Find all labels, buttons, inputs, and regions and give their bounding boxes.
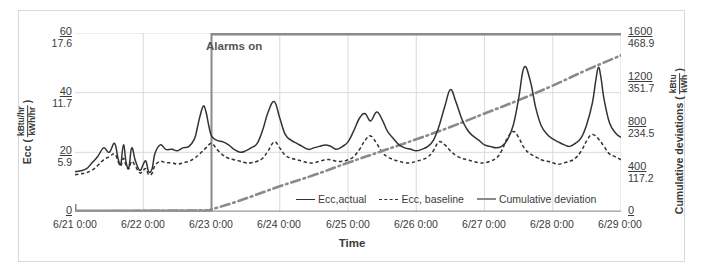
x-tick-5: 6/26 0:00 xyxy=(379,218,453,230)
left-tick-60-primary: 60 xyxy=(32,26,72,38)
legend-label-ecc-actual: Ecc,actual xyxy=(318,193,366,205)
left-tick-20-primary: 20 xyxy=(32,145,72,157)
right-tick-1200: 1200 351.7 xyxy=(628,71,672,94)
right-tick-1200-secondary: 351.7 xyxy=(628,83,672,94)
x-tick-0: 6/21 0:00 xyxy=(38,218,112,230)
left-tick-20: 20 5.9 xyxy=(32,145,72,168)
plot-svg xyxy=(75,33,621,212)
left-tick-40-primary: 40 xyxy=(32,86,72,98)
right-tick-400-primary: 400 xyxy=(628,161,672,173)
x-tick-7: 6/28 0:00 xyxy=(515,218,589,230)
legend-swatch-thick-line-icon xyxy=(477,198,496,200)
legend-label-cumulative-deviation: Cumulative deviation xyxy=(499,193,596,205)
legend-item-ecc-baseline: Ecc, baseline xyxy=(379,193,463,205)
x-tick-6: 6/27 0:00 xyxy=(447,218,521,230)
right-tick-800: 800 234.5 xyxy=(628,116,672,139)
chart-legend: Ecc,actual Ecc, baseline Cumulative devi… xyxy=(296,193,596,205)
x-tick-4: 6/25 0:00 xyxy=(311,218,385,230)
x-tick-3: 6/24 0:00 xyxy=(242,218,316,230)
right-tick-1600-secondary: 468.9 xyxy=(628,38,672,49)
right-axis-title-close: ) xyxy=(673,68,685,72)
x-tick-8: 6/29 0:00 xyxy=(583,218,657,230)
plot-area xyxy=(75,33,621,212)
x-axis-title: Time xyxy=(0,237,704,249)
right-tick-0-primary: 0 xyxy=(628,205,672,217)
left-tick-0: 0 xyxy=(32,205,72,217)
right-tick-400-secondary: 117.2 xyxy=(628,173,672,184)
right-tick-1600: 1600 468.9 xyxy=(628,26,672,49)
right-tick-400: 400 117.2 xyxy=(628,161,672,184)
x-tick-1: 6/22 0:00 xyxy=(106,218,180,230)
left-axis-unit-denominator: kWh/hr xyxy=(28,106,38,137)
legend-item-cumulative-deviation: Cumulative deviation xyxy=(477,193,596,205)
right-tick-800-secondary: 234.5 xyxy=(628,128,672,139)
x-tick-2: 6/23 0:00 xyxy=(174,218,248,230)
left-axis-unit-numerator: kBtu/hr xyxy=(17,105,28,137)
right-axis-unit-numerator: kBtu xyxy=(669,73,680,94)
chart-figure: Ecc ( kBtu/hr kWh/hr ) 60 17.6 40 11.7 2… xyxy=(0,0,704,274)
right-tick-800-primary: 800 xyxy=(628,116,672,128)
left-tick-0-primary: 0 xyxy=(32,205,72,217)
right-tick-0: 0 xyxy=(628,205,672,217)
legend-swatch-line-icon xyxy=(296,199,315,200)
right-axis-title-text: Cumulative deviations ( xyxy=(673,96,685,214)
right-tick-1600-primary: 1600 xyxy=(628,26,672,38)
gridlines xyxy=(75,33,621,212)
right-axis-unit-denominator: kWh xyxy=(680,74,690,94)
left-tick-40-secondary: 11.7 xyxy=(32,98,72,109)
right-tick-1200-primary: 1200 xyxy=(628,71,672,83)
left-tick-60-secondary: 17.6 xyxy=(32,38,72,49)
left-tick-20-secondary: 5.9 xyxy=(32,157,72,168)
left-axis-unit: kBtu/hr kWh/hr xyxy=(17,105,37,137)
right-axis-title: Cumulative deviations ( kBtu kWh ) xyxy=(668,56,690,226)
legend-label-ecc-baseline: Ecc, baseline xyxy=(401,193,463,205)
left-tick-60: 60 17.6 xyxy=(32,26,72,49)
alarms-on-label: Alarms on xyxy=(206,40,262,52)
right-axis-unit: kBtu kWh xyxy=(669,73,689,94)
left-tick-40: 40 11.7 xyxy=(32,86,72,109)
legend-swatch-dashed-line-icon xyxy=(379,199,398,200)
legend-item-ecc-actual: Ecc,actual xyxy=(296,193,366,205)
